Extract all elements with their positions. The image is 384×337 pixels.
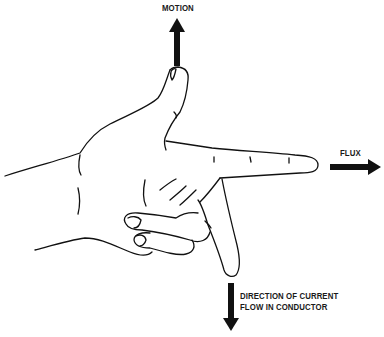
flux-label: FLUX (340, 148, 361, 159)
hand-drawing (5, 67, 318, 276)
current-arrow-icon (223, 283, 239, 331)
motion-label: MOTION (162, 3, 194, 14)
current-label-line2: FLOW IN CONDUCTOR (240, 302, 327, 313)
hand-rule-diagram (0, 0, 384, 337)
motion-arrow-icon (169, 18, 185, 66)
current-label-line1: DIRECTION OF CURRENT (240, 291, 338, 302)
flux-arrow-icon (330, 159, 381, 175)
